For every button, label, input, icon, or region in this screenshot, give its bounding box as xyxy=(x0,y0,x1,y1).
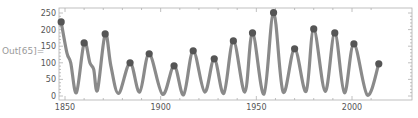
maximum-point xyxy=(230,37,237,44)
maximum-point xyxy=(170,62,177,69)
maximum-point xyxy=(190,47,197,54)
maximum-point xyxy=(211,55,218,62)
x-tick-label: 1850 xyxy=(55,103,75,112)
maximum-point xyxy=(375,60,382,67)
maximum-point xyxy=(102,30,109,37)
maximum-point xyxy=(249,29,256,36)
y-tick-label: 250 xyxy=(41,9,56,18)
maximum-point xyxy=(291,45,298,52)
y-tick-label: 50 xyxy=(46,75,56,84)
y-tick-label: 150 xyxy=(41,42,56,51)
maximum-point xyxy=(350,40,357,47)
y-tick-label: 200 xyxy=(41,26,56,35)
axis-ticks: 1850190019502000050100150200250 xyxy=(41,8,412,112)
maximum-point xyxy=(81,39,88,46)
maximum-point xyxy=(270,9,277,16)
y-tick-label: 0 xyxy=(51,92,56,101)
y-tick-label: 100 xyxy=(41,59,56,68)
maximum-point xyxy=(146,50,153,57)
maximum-point xyxy=(310,25,317,32)
sunspot-line-chart: 1850190019502000050100150200250 xyxy=(0,0,418,118)
smoothed-line-series xyxy=(61,13,379,96)
maximum-point xyxy=(331,29,338,36)
x-tick-label: 1900 xyxy=(150,103,170,112)
maximum-point xyxy=(58,18,65,25)
maximum-point xyxy=(126,59,133,66)
x-tick-label: 1950 xyxy=(246,103,266,112)
x-tick-label: 2000 xyxy=(342,103,362,112)
